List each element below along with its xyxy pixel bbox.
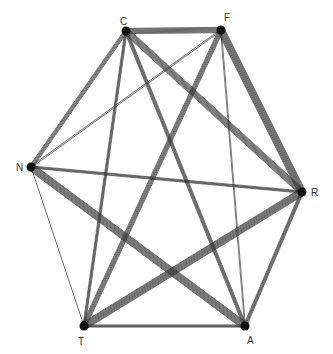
node-T bbox=[80, 322, 89, 331]
edge-bundles bbox=[29, 27, 305, 329]
node-label-F: F bbox=[224, 12, 230, 23]
node-F bbox=[217, 26, 226, 35]
edge-C-R bbox=[124, 29, 304, 195]
edge-C-F bbox=[126, 27, 221, 33]
edge-F-N bbox=[31, 29, 222, 167]
edge-N-R bbox=[31, 166, 302, 193]
node-label-N: N bbox=[16, 162, 23, 173]
node-label-T: T bbox=[78, 336, 84, 347]
node-R bbox=[298, 188, 307, 197]
edge-C-N bbox=[30, 30, 128, 168]
node-C bbox=[122, 27, 131, 36]
node-label-R: R bbox=[311, 187, 318, 198]
node-A bbox=[241, 322, 250, 331]
edge-F-R bbox=[218, 28, 305, 193]
node-label-C: C bbox=[120, 16, 127, 27]
node-label-A: A bbox=[247, 335, 254, 346]
node-N bbox=[27, 163, 36, 172]
edge-T-A bbox=[84, 325, 245, 327]
network-diagram: CFNRTA bbox=[0, 0, 333, 354]
